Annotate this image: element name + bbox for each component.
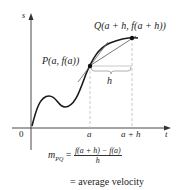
tick-label-a-plus-h: a + h xyxy=(121,129,141,139)
y-axis-arrow-icon xyxy=(29,13,34,20)
h-bracket xyxy=(91,67,131,74)
interval-label-h: h xyxy=(107,75,112,86)
slope-formula: mPQ = f(a + h) − f(a) h xyxy=(48,146,122,165)
formula-result: = average velocity xyxy=(70,176,144,187)
point-p xyxy=(88,64,92,68)
point-p-label: P(a, f(a)) xyxy=(42,55,79,66)
formula-subscript: PQ xyxy=(55,156,63,162)
position-curve xyxy=(32,38,138,126)
y-axis-label: s xyxy=(22,11,25,20)
tangent-line xyxy=(78,42,108,82)
origin-label: 0 xyxy=(19,129,24,139)
tick-label-a: a xyxy=(87,129,92,139)
formula-equals: = xyxy=(66,149,72,160)
secant-line-pq xyxy=(88,36,136,67)
formula-denominator: h xyxy=(74,156,122,165)
point-q xyxy=(130,36,134,40)
point-q-label: Q(a + h, f(a + h)) xyxy=(94,20,166,31)
formula-fraction: f(a + h) − f(a) h xyxy=(74,146,122,165)
formula-numerator: f(a + h) − f(a) xyxy=(74,146,122,156)
x-axis-label: t xyxy=(165,129,168,139)
